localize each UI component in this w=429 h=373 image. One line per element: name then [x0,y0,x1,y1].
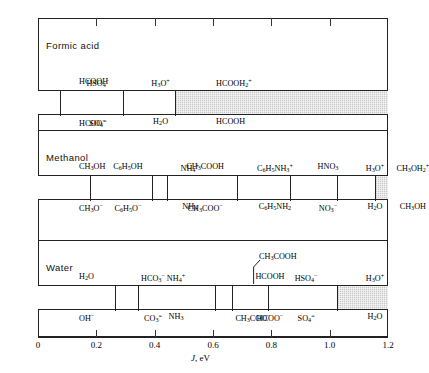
x-axis-tick [330,330,331,338]
species-tick [268,286,269,311]
panel-separator [38,130,388,131]
base-species-label: H2O [367,203,382,211]
levelling-shaded-region [337,286,388,309]
top-axis-tick [330,18,331,26]
x-axis-tick [213,330,214,338]
base-species-label: HCOOH [216,118,245,126]
species-tick [337,286,338,311]
acid-species-label: HNO3 [318,163,339,171]
x-axis-tick-label: 1.0 [324,340,335,350]
top-axis-tick [155,18,156,26]
panel-title: Water [46,262,73,273]
x-axis-tick-label: 1.2 [382,340,393,350]
acid-species-label: H3O+ [151,78,169,88]
base-species-label: CH3OH [400,203,426,211]
x-axis-tick-label: 0.4 [149,340,160,350]
x-axis-title-units: , eV [195,353,210,363]
acid-species-label: HSO4− [295,273,318,283]
base-species-label: CO3= [144,313,162,323]
solvent-band [38,285,388,310]
species-tick [375,176,376,201]
acid-species-label: NH4+ [167,273,185,283]
species-tick [232,286,233,311]
x-axis-tick-label: 0.2 [91,340,102,350]
levelling-shaded-region [175,91,388,114]
acid-species-label: CH3COOH [186,163,224,171]
base-species-label: HCOO− [257,313,284,323]
base-species-label: OH− [79,313,94,323]
base-species-label: SO4= [89,118,106,128]
panel-separator [38,240,388,241]
base-species-label: H2O [153,118,168,126]
species-tick [152,176,153,201]
acid-species-label: CH3OH [79,163,105,171]
species-tick [337,176,338,201]
species-tick [115,286,116,311]
x-axis-title: J, eV [0,353,401,363]
x-axis-tick [155,330,156,338]
solvent-band [38,175,388,200]
acid-species-label: C6H5NH3+ [257,163,293,173]
acid-species-label: C6H5OH [113,163,142,171]
levelling-shaded-region [375,176,388,199]
species-tick [167,176,168,201]
x-axis-tick-label: 0.6 [207,340,218,350]
species-tick [175,91,176,116]
species-tick [215,286,216,311]
solvent-band [38,90,388,115]
base-species-label: CH3O− [79,203,103,213]
top-axis-tick [96,18,97,26]
acid-species-label: HSO4− [86,78,109,88]
top-axis-tick [271,18,272,26]
base-species-label: C6H5O− [114,203,141,213]
species-tick [290,176,291,201]
x-axis-tick [96,330,97,338]
acid-species-label: CH3OH2+ [396,163,429,173]
acid-species-label: HCO3− [141,273,165,283]
species-tick [237,176,238,201]
x-axis-tick-label: 0.8 [266,340,277,350]
acid-species-label: H2O [79,273,94,281]
base-species-label: NH3 [169,313,184,321]
species-tick [138,286,139,311]
x-axis-tick [271,330,272,338]
base-species-label: C6H5NH2 [259,203,292,211]
base-species-label: SO4= [298,313,315,323]
acid-species-label: H3O+ [366,273,384,283]
base-species-label: NO3− [319,203,337,213]
base-species-label: H2O [367,313,382,321]
x-axis-tick-label: 0 [36,340,41,350]
acid-species-label: HCOOH [255,273,284,281]
species-tick [60,91,61,116]
top-axis-tick [213,18,214,26]
base-species-label: CH3COO− [188,203,223,213]
acid-species-label: H3O+ [366,163,384,173]
species-tick [123,91,124,116]
species-tick [90,176,91,201]
panel-title: Formic acid [46,40,100,51]
acid-species-label: HCOOH2+ [216,78,252,88]
